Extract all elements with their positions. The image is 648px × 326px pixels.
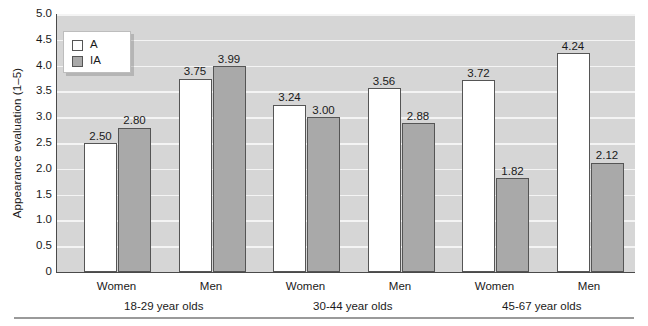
bar: 3.56 [368, 88, 401, 272]
bar-value-label: 1.82 [501, 166, 523, 178]
y-axis-tick-label: 1.5 [26, 189, 52, 201]
y-axis-tick-label: 0.5 [26, 240, 52, 252]
bar-value-label: 3.24 [278, 92, 300, 104]
plot-area: 2.502.803.753.993.243.003.562.883.721.82… [56, 14, 635, 273]
bar: 3.99 [213, 66, 246, 272]
y-axis-tick-label: 4.0 [26, 60, 52, 72]
bar-value-label: 3.56 [373, 76, 395, 88]
x-axis-category-label: Women [475, 281, 514, 293]
bar-chart-figure: Appearance evaluation (1–5) 5.04.54.03.5… [0, 0, 648, 326]
x-axis-group-label: 18-29 year olds [124, 301, 203, 313]
gridline [57, 14, 635, 16]
bar-value-label: 2.50 [89, 131, 111, 143]
y-axis-title: Appearance evaluation (1–5) [11, 13, 23, 273]
bar: 1.82 [496, 178, 529, 272]
legend-swatch-ia-icon [72, 56, 83, 67]
y-axis-tick-label: 4.5 [26, 34, 52, 46]
y-axis-tick-label: 1.0 [26, 215, 52, 227]
bar-value-label: 2.12 [596, 150, 618, 162]
bar-value-label: 2.80 [123, 115, 145, 127]
y-axis-tick-label: 5.0 [26, 8, 52, 20]
bar-value-label: 3.99 [218, 54, 240, 66]
gridline [57, 91, 635, 93]
bar: 2.50 [84, 143, 117, 272]
legend-label-a: A [90, 39, 98, 51]
legend-label-ia: IA [90, 55, 101, 67]
legend-item-ia: IA [72, 53, 130, 69]
bar-value-label: 3.00 [312, 105, 334, 117]
x-axis-category-label: Men [578, 281, 600, 293]
gridline [57, 66, 635, 68]
legend-item-a: A [72, 37, 130, 53]
y-axis-tick-label: 0 [26, 266, 52, 278]
y-axis-tick-label: 3.0 [26, 111, 52, 123]
bar-value-label: 2.88 [407, 111, 429, 123]
bar-value-label: 3.72 [467, 68, 489, 80]
legend: A IA [63, 31, 131, 73]
x-axis-category-label: Women [286, 281, 325, 293]
x-axis-category-label: Men [389, 281, 411, 293]
bar: 4.24 [557, 53, 590, 272]
legend-swatch-a-icon [72, 40, 83, 51]
bar: 3.24 [273, 105, 306, 272]
x-axis-group-label: 30-44 year olds [313, 301, 392, 313]
bar-value-label: 4.24 [562, 41, 584, 53]
y-axis-tick-label: 2.5 [26, 137, 52, 149]
x-axis-group-label: 45-67 year olds [502, 301, 581, 313]
gridline [57, 40, 635, 42]
bar: 2.80 [118, 128, 151, 272]
footer-divider [14, 317, 634, 319]
bar: 3.00 [307, 117, 340, 272]
x-axis-category-label: Men [200, 281, 222, 293]
x-axis-category-label: Women [97, 281, 136, 293]
bar: 3.75 [179, 79, 212, 273]
y-axis-tick-labels: 5.04.54.03.53.02.52.01.51.00.50 [26, 0, 52, 326]
bar: 2.12 [591, 163, 624, 272]
bar-value-label: 3.75 [184, 66, 206, 78]
y-axis-tick-label: 2.0 [26, 163, 52, 175]
y-axis-tick-label: 3.5 [26, 86, 52, 98]
bar: 2.88 [402, 123, 435, 272]
bar: 3.72 [462, 80, 495, 272]
